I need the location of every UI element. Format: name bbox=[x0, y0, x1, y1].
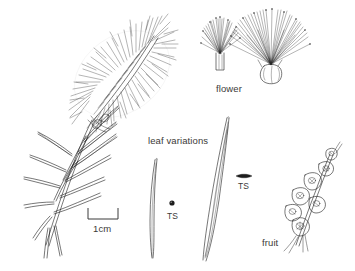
scale-bar bbox=[88, 208, 118, 219]
fruit-capsule bbox=[292, 188, 309, 205]
branch-leaves bbox=[24, 106, 119, 258]
fruit-capsule bbox=[285, 204, 302, 221]
bottlebrush-inflorescence bbox=[58, 13, 187, 136]
flower-broad-stamens bbox=[230, 9, 310, 65]
ts-narrow-section bbox=[169, 200, 174, 205]
botanical-illustration-plate: flower leaf variations TS TS 1cm fruit bbox=[0, 0, 355, 271]
label-scale-bar: 1cm bbox=[93, 224, 111, 234]
flower-narrow-anthers bbox=[200, 16, 240, 43]
single-flower-narrow bbox=[200, 16, 240, 70]
fruit-capsule bbox=[309, 196, 326, 213]
fruit-capsule bbox=[304, 173, 321, 190]
flower-narrow-stamens bbox=[201, 17, 240, 54]
fruit-cluster bbox=[284, 142, 342, 253]
single-flower-broad bbox=[229, 8, 311, 83]
ts-broad-section bbox=[236, 174, 252, 178]
stamen-filaments bbox=[69, 14, 178, 132]
label-leaf-variations: leaf variations bbox=[148, 136, 208, 146]
flowering-branch bbox=[24, 106, 119, 258]
label-ts-broad: TS bbox=[238, 182, 249, 191]
branch-stem bbox=[46, 120, 95, 246]
leaf-narrow bbox=[150, 158, 157, 258]
label-ts-narrow: TS bbox=[167, 212, 178, 221]
label-fruit: fruit bbox=[262, 238, 278, 248]
label-flower: flower bbox=[216, 84, 242, 94]
